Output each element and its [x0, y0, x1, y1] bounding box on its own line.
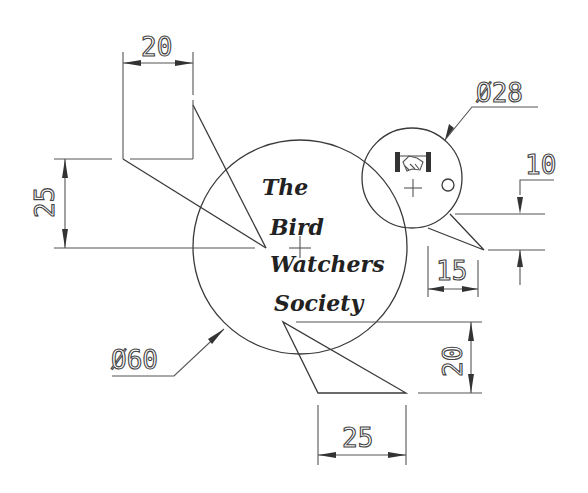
svg-text:25: 25	[342, 423, 373, 453]
svg-text:Watchers: Watchers	[270, 251, 385, 277]
svg-text:20: 20	[141, 32, 172, 62]
handshake-icon	[395, 152, 431, 172]
beak	[428, 214, 484, 250]
svg-text:10: 10	[525, 150, 556, 180]
svg-text:15: 15	[436, 256, 467, 286]
svg-text:20: 20	[438, 346, 468, 377]
svg-text:Society: Society	[274, 290, 365, 316]
dim-wing-height: 25	[30, 159, 255, 248]
head-center-mark	[404, 179, 422, 197]
head-circle	[362, 128, 462, 228]
dim-body-diameter: Ø60	[111, 329, 224, 376]
society-title: The Bird Watchers Society	[262, 174, 385, 316]
dim-beak-length: 15	[428, 246, 478, 297]
eye-icon	[442, 179, 454, 191]
svg-text:The: The	[262, 174, 308, 200]
dim-beak-offset: 10	[455, 150, 556, 285]
svg-text:Ø60: Ø60	[111, 345, 158, 375]
dim-wing-width: 20	[123, 32, 193, 159]
dim-tail-width: 25	[318, 405, 406, 465]
dim-tail-height: 20	[296, 322, 482, 393]
bird-drawing: 20 25 Ø28 10 15	[0, 0, 588, 493]
svg-text:25: 25	[30, 187, 60, 218]
tail	[283, 322, 406, 393]
svg-text:Bird: Bird	[269, 214, 324, 240]
svg-text:Ø28: Ø28	[476, 78, 523, 108]
dim-head-diameter: Ø28	[445, 78, 538, 140]
